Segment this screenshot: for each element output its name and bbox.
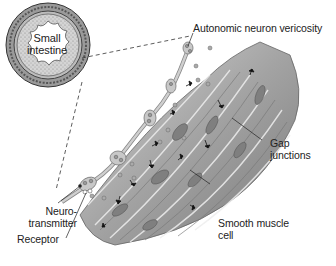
zoom-line-bottom (56, 82, 82, 190)
inset-label-line1: Small (27, 32, 67, 44)
label-neurotransmitter: Neuro- transmitter (28, 205, 77, 229)
smooth-line1: Smooth muscle (218, 217, 289, 229)
inset-label: Small intestine (27, 32, 67, 56)
gap-line1: Gap (270, 137, 311, 149)
zoom-line-top (82, 36, 190, 58)
gap-line2: junctions (270, 149, 311, 161)
label-smooth-muscle-cell: Smooth muscle cell (218, 217, 289, 241)
neuro-line2: transmitter (28, 217, 77, 229)
smooth-muscle-sheet (80, 42, 299, 245)
receptor-dot (83, 190, 87, 194)
neuro-line1: Neuro- (28, 205, 77, 217)
smooth-line2: cell (218, 229, 289, 241)
label-vericosity: Autonomic neuron vericosity (193, 22, 322, 34)
label-receptor: Receptor (17, 233, 59, 245)
inset-label-line2: intestine (27, 44, 67, 56)
label-gap-junctions: Gap junctions (270, 137, 311, 161)
smooth-muscle-diagram: Small intestine Autonomic neuron vericos… (0, 0, 336, 266)
